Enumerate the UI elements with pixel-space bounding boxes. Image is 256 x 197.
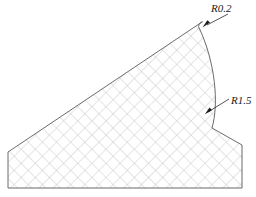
technical-drawing-canvas: R0.2 R1.5: [0, 0, 256, 197]
r15-label: R1.5: [230, 94, 252, 106]
r02-label: R0.2: [210, 2, 232, 14]
drawing-svg: R0.2 R1.5: [0, 0, 256, 197]
